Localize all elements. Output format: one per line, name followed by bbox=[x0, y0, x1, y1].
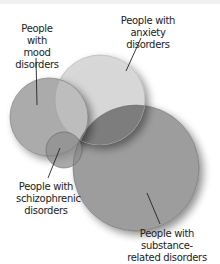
substance-label-line-2: related disorders bbox=[114, 252, 220, 264]
substance-label-line-1: People with substance- bbox=[114, 228, 220, 252]
schizophrenic-label-line-1: People with bbox=[16, 181, 76, 193]
substance-label: People with substance- related disorders bbox=[114, 228, 220, 264]
mood-label: People with mood disorders bbox=[12, 23, 62, 71]
mood-label-line-3: disorders bbox=[12, 59, 62, 71]
anxiety-label-line-1: People with bbox=[108, 15, 188, 27]
schizophrenic-label-line-2: schizophrenic bbox=[16, 193, 76, 205]
anxiety-label-line-2: anxiety disorders bbox=[108, 27, 188, 51]
schizophrenic-label-line-3: disorders bbox=[16, 205, 76, 217]
anxiety-label: People with anxiety disorders bbox=[108, 15, 188, 51]
mood-label-line-1: People with bbox=[12, 23, 62, 47]
mood-label-line-2: mood bbox=[12, 47, 62, 59]
schizophrenic-label: People with schizophrenic disorders bbox=[16, 181, 76, 217]
